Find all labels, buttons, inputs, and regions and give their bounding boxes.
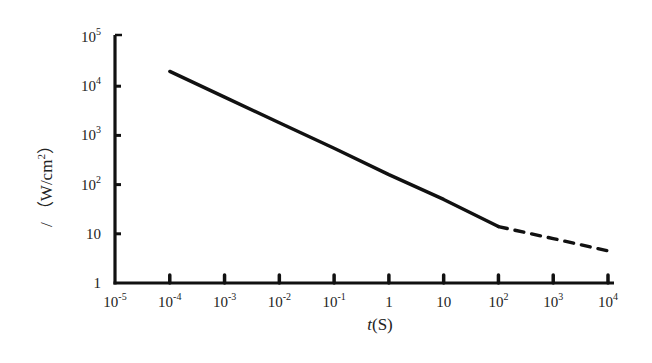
y-axis-title: /（W/cm2） [35,137,56,227]
axes [114,35,615,285]
plot-lines [170,71,608,251]
x-axis-ticks: 10-510-410-310-210-1110102103104 [103,275,618,310]
x-tick-label: 102 [488,291,508,310]
x-tick-label: 10-4 [158,291,181,310]
x-tick-label: 10 [436,294,451,310]
x-axis-title: t(S) [367,315,393,334]
series-extrapolated-line [498,227,608,251]
y-tick-label: 104 [81,75,101,94]
x-tick-label: 10-3 [213,291,236,310]
y-tick-label: 1 [94,275,102,291]
x-axis-unit: (S) [372,315,393,334]
y-tick-label: 10 [86,226,101,242]
x-tick-label: 103 [543,291,563,310]
x-tick-label: 10-1 [322,291,345,310]
y-axis-unit-close: ） [37,137,56,154]
y-tick-label: 102 [81,174,101,193]
x-tick-label: 10-2 [268,291,291,310]
x-tick-label: 104 [598,291,618,310]
x-tick-label: 10-5 [103,291,126,310]
y-axis-var: / [37,222,56,227]
y-tick-label: 103 [81,124,101,143]
x-tick-label: 1 [385,294,393,310]
y-axis-unit: （W/cm [37,160,56,219]
y-tick-label: 105 [81,26,101,45]
series-measured-line [170,71,499,226]
chart: 10-510-410-310-210-1110102103104 1101021… [0,0,652,363]
